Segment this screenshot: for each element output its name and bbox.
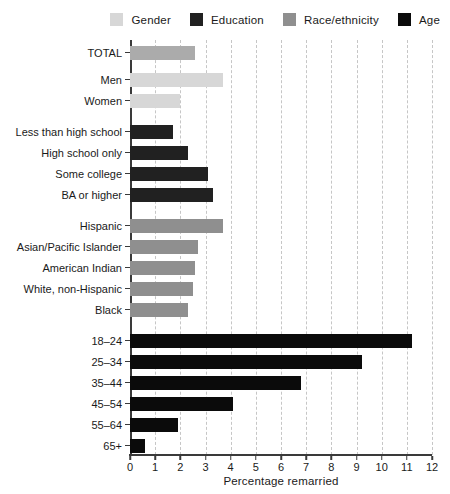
bar-group: TOTALMenWomen [12,42,432,111]
x-tick-mark [356,456,358,460]
x-tick-mark [331,456,333,460]
bar-track [130,240,432,254]
bar-track [130,261,432,275]
x-tick-label: 4 [228,461,234,473]
x-tick-mark [305,456,307,460]
x-tick-mark [205,456,207,460]
bar-track [130,94,432,108]
bar-row: Black [12,299,432,320]
bar-track [130,397,432,411]
legend-label: Education [211,14,264,26]
x-tick-label: 1 [152,461,158,473]
bar-track [130,418,432,432]
bar-row: BA or higher [12,184,432,205]
legend-swatch-gender [110,13,123,26]
x-tick-label: 5 [253,461,259,473]
legend-label: Race/ethnicity [304,14,379,26]
x-tick-mark [230,456,232,460]
bar-row: TOTAL [12,42,432,63]
bar-track [130,355,432,369]
category-label: 55–64 [12,419,130,431]
x-tick-mark [381,456,383,460]
bar-track [130,282,432,296]
bar-row: 35–44 [12,372,432,393]
x-tick-label: 7 [303,461,309,473]
bar-track [130,125,432,139]
legend: GenderEducationRace/ethnicityAge [0,13,440,26]
x-tick-label: 10 [376,461,388,473]
gridline [432,40,433,455]
x-tick-label: 0 [127,461,133,473]
bar [130,261,195,275]
bar-row: 25–34 [12,351,432,372]
bar [130,418,178,432]
x-tick-mark [431,456,433,460]
bar-row: American Indian [12,257,432,278]
bar-row: 55–64 [12,414,432,435]
category-label: White, non-Hispanic [12,283,130,295]
legend-swatch-education [190,13,203,26]
legend-item-race: Race/ethnicity [283,13,379,26]
bar-track [130,73,432,87]
bar-row: High school only [12,142,432,163]
legend-item-education: Education [190,13,264,26]
bar [130,376,301,390]
x-tick-mark [280,456,282,460]
category-label: BA or higher [12,189,130,201]
bar-track [130,439,432,453]
bar-track [130,303,432,317]
bar [130,167,208,181]
bar-group: 18–2425–3435–4445–5455–6465+ [12,330,432,456]
bar-row: 65+ [12,435,432,456]
bar-row: Men [12,69,432,90]
bar-group: Less than high schoolHigh school onlySom… [12,121,432,205]
legend-swatch-age [398,13,411,26]
legend-label: Gender [131,14,171,26]
category-label: TOTAL [12,47,130,59]
x-tick-label: 12 [426,461,438,473]
category-label: Black [12,304,130,316]
category-label: High school only [12,147,130,159]
category-label: 45–54 [12,398,130,410]
bar [130,188,213,202]
category-label: Women [12,95,130,107]
bar-track [130,188,432,202]
x-tick-label: 8 [328,461,334,473]
bar [130,73,223,87]
bar [130,219,223,233]
bar-row: Hispanic [12,215,432,236]
bar [130,240,198,254]
bar-group: HispanicAsian/Pacific IslanderAmerican I… [12,215,432,320]
x-tick-mark [154,456,156,460]
bar [130,334,412,348]
bar [130,303,188,317]
bar-track [130,46,432,60]
category-label: Asian/Pacific Islander [12,241,130,253]
x-tick-mark [129,456,131,460]
bar-row: Some college [12,163,432,184]
legend-label: Age [419,14,440,26]
bar-row: White, non-Hispanic [12,278,432,299]
category-label: Men [12,74,130,86]
bar [130,94,180,108]
bar-track [130,146,432,160]
bar [130,397,233,411]
bar-track [130,219,432,233]
category-label: 18–24 [12,335,130,347]
category-label: Some college [12,168,130,180]
legend-item-age: Age [398,13,440,26]
x-tick-label: 2 [177,461,183,473]
x-tick-label: 11 [401,461,412,473]
x-axis-title: Percentage remarried [130,475,432,487]
bar [130,146,188,160]
bar [130,439,145,453]
x-tick-label: 6 [278,461,284,473]
x-tick-mark [255,456,257,460]
category-label: 25–34 [12,356,130,368]
bar [130,355,362,369]
legend-swatch-race [283,13,296,26]
x-tick-label: 3 [202,461,208,473]
category-label: American Indian [12,262,130,274]
category-label: 35–44 [12,377,130,389]
bar-row: 18–24 [12,330,432,351]
